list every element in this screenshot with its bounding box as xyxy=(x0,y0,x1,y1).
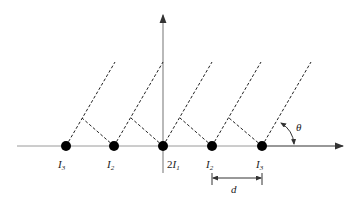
diagram-canvas: I3 I2 2I1 I2 I3 d θ xyxy=(0,0,355,201)
label-source-4: I2 xyxy=(205,158,214,172)
label-source-2: I2 xyxy=(106,158,115,172)
label-source-5: I3 xyxy=(255,158,264,172)
source-dot xyxy=(109,141,119,151)
angle-label: θ xyxy=(296,121,302,133)
diffracted-rays xyxy=(66,62,311,146)
spacing-label: d xyxy=(231,183,237,195)
label-source-center: 2I1 xyxy=(167,158,180,172)
angle-arc xyxy=(281,123,294,144)
source-dot xyxy=(257,141,267,151)
spacing-bracket xyxy=(212,173,262,185)
label-source-1: I3 xyxy=(57,158,66,172)
source-dot xyxy=(158,141,168,151)
path-difference-segments xyxy=(82,118,262,146)
source-dot xyxy=(207,141,217,151)
source-dot xyxy=(61,141,71,151)
